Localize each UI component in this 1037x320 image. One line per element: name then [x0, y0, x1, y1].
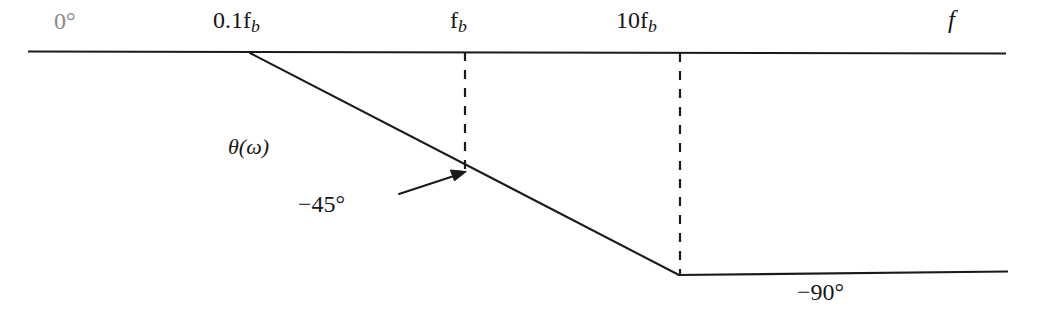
minus45-annotation-arrow: [399, 170, 466, 194]
label-minus-45-degrees: −45°: [298, 192, 345, 216]
plot-canvas: [0, 0, 1037, 320]
minus-ninety-asymptote-line: [678, 272, 1008, 276]
bode-phase-plot-figure: 0° 0.1fb fb 10fb f θ(ω) −45° −90°: [0, 0, 1037, 320]
label-zero-degrees: 0°: [54, 9, 76, 33]
label-frequency-axis: f: [948, 7, 955, 32]
label-breakpoint-low: 0.1fb: [213, 8, 260, 36]
label-breakpoint-high: 10fb: [616, 8, 657, 36]
zero-degree-asymptote-line: [28, 52, 1006, 54]
label-phase-curve: θ(ω): [228, 136, 269, 158]
label-minus-90-degrees: −90°: [797, 280, 844, 304]
label-breakpoint-mid: fb: [450, 8, 467, 36]
